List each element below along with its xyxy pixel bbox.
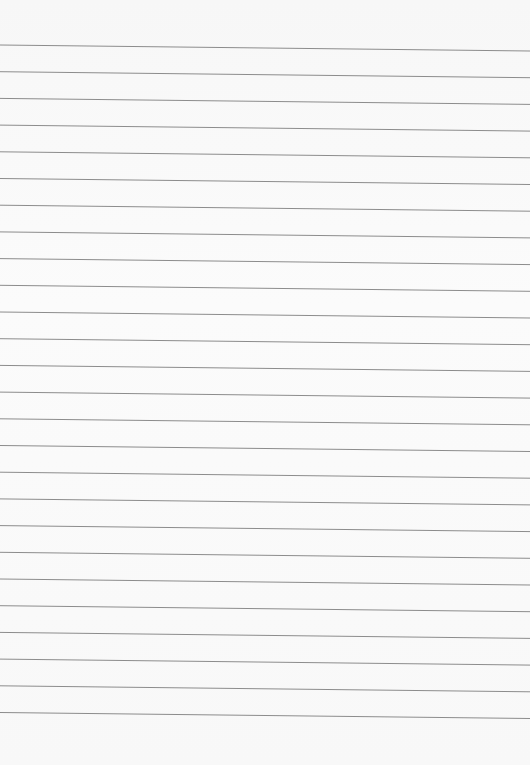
ruled-line [0,526,530,532]
ruled-line [0,339,530,345]
ruled-line [0,285,530,291]
ruled-line [0,606,530,612]
ruled-line [0,472,530,478]
ruled-line [0,392,530,398]
ruled-lines [0,0,530,765]
ruled-line [0,259,530,265]
ruled-line [0,72,530,78]
ruled-line [0,659,530,665]
ruled-line [0,312,530,318]
lined-paper-sheet [0,0,530,765]
ruled-line [0,179,530,185]
ruled-line [0,499,530,505]
ruled-line [0,205,530,211]
ruled-line [0,365,530,371]
ruled-line [0,152,530,158]
ruled-line [0,686,530,692]
ruled-line [0,419,530,425]
ruled-line [0,552,530,558]
ruled-line [0,45,530,51]
ruled-line [0,98,530,104]
ruled-line [0,579,530,585]
ruled-line [0,232,530,238]
ruled-line [0,632,530,638]
ruled-line [0,713,530,719]
ruled-line [0,446,530,452]
ruled-line [0,125,530,131]
